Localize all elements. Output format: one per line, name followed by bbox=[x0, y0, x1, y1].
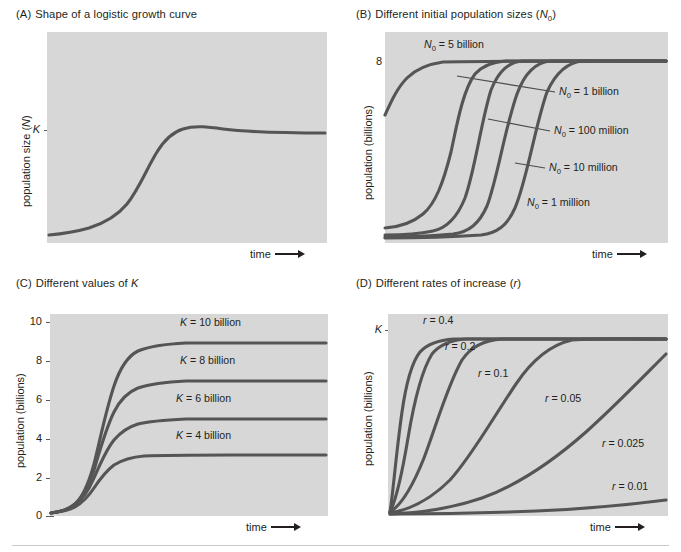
panel-c-xaxis-label: time bbox=[246, 521, 301, 533]
panel-d-label-2-text: = 0.1 bbox=[482, 367, 509, 379]
panel-a-logistic-curve bbox=[49, 127, 325, 235]
panel-d-label-0-text: = 0.4 bbox=[427, 314, 454, 326]
panel-d-label-4-text: = 0.025 bbox=[606, 437, 645, 449]
panel-a-ytick-k-label: K bbox=[26, 123, 40, 135]
panel-b-label-4-symbol: N bbox=[527, 196, 535, 208]
panel-a-xlabel-text: time bbox=[250, 248, 271, 260]
panel-b-label-n0-1-billion: N0 = 1 billion bbox=[559, 85, 619, 100]
panel-b-title-post: ) bbox=[552, 8, 556, 20]
panel-d-arrow-right-icon bbox=[615, 523, 645, 531]
panel-a-arrow-right-icon bbox=[275, 250, 305, 258]
panel-c-label-1-text: = 8 billion bbox=[187, 354, 235, 366]
panel-d-label-5-text: = 0.01 bbox=[616, 480, 649, 492]
panel-b-label-2-symbol: N bbox=[554, 124, 562, 136]
panel-c-ytick-2-label: 2 bbox=[22, 471, 42, 483]
panel-a-tag: (A) bbox=[16, 8, 31, 20]
panel-b-curve-n0-5-billion bbox=[385, 61, 666, 115]
panel-b-label-n0-5-billion: N0 = 5 billion bbox=[424, 38, 484, 53]
panel-b-label-4-text: = 1 million bbox=[539, 196, 590, 208]
panel-b-label-1-text: = 1 billion bbox=[571, 85, 619, 97]
panel-d-label-r-0-025: r = 0.025 bbox=[602, 437, 644, 449]
panel-c-curve-k-10-billion bbox=[51, 343, 326, 513]
panel-c-ytick-4-label: 4 bbox=[22, 432, 42, 444]
panel-c-title-pre: Different values of bbox=[36, 277, 131, 289]
panel-d-xlabel-text: time bbox=[590, 521, 611, 533]
panel-d-ytick-k-label: K bbox=[368, 323, 382, 335]
panel-b-label-1-symbol: N bbox=[559, 85, 567, 97]
panel-b-title-symbol: N bbox=[540, 8, 548, 20]
panel-b-label-3-text: = 10 million bbox=[561, 161, 618, 173]
panel-a-title: (A)Shape of a logistic growth curve bbox=[16, 8, 197, 20]
panel-c-label-2-text: = 6 billion bbox=[183, 392, 231, 404]
panel-d-label-3-text: = 0.05 bbox=[549, 392, 582, 404]
panel-a-title-text: Shape of a logistic growth curve bbox=[35, 8, 197, 20]
panel-c: (C)Different values of K population (bil… bbox=[0, 276, 340, 552]
panel-b-tag: (B) bbox=[356, 8, 371, 20]
panel-d-label-r-0-1: r = 0.1 bbox=[478, 367, 508, 379]
panel-c-xlabel-text: time bbox=[246, 521, 267, 533]
figure-logistic-growth-panels: (A)Shape of a logistic growth curve popu… bbox=[0, 0, 681, 552]
panel-b-label-3-symbol: N bbox=[549, 161, 557, 173]
panel-d-label-r-0-4: r = 0.4 bbox=[423, 314, 453, 326]
panel-d-label-1-text: = 0.2 bbox=[449, 340, 476, 352]
panel-d-curve-r-0-01 bbox=[390, 500, 666, 514]
panel-c-label-3-text: = 4 billion bbox=[183, 429, 231, 441]
panel-c-title-symbol: K bbox=[131, 277, 139, 289]
panel-b-xaxis-label: time bbox=[592, 248, 647, 260]
panel-d-label-r-0-2: r = 0.2 bbox=[445, 340, 475, 352]
panel-b-label-0-text: = 5 billion bbox=[436, 38, 484, 50]
panel-c-ytick-10-label: 10 bbox=[22, 315, 42, 327]
panel-c-label-k-6-billion: K = 6 billion bbox=[176, 392, 231, 404]
panel-d: (D)Different rates of increase (r) popul… bbox=[340, 276, 681, 552]
panel-d-title: (D)Different rates of increase (r) bbox=[356, 277, 521, 289]
panel-b-label-n0-10-million: N0 = 10 million bbox=[549, 161, 618, 176]
panel-a-plot-area bbox=[47, 32, 327, 243]
panel-c-label-k-8-billion: K = 8 billion bbox=[180, 354, 235, 366]
panel-c-title: (C)Different values of K bbox=[16, 277, 138, 289]
panel-c-ytick-0-mark bbox=[46, 516, 54, 517]
panel-a-curve-svg bbox=[47, 32, 327, 243]
panel-b-title-pre: Different initial population sizes ( bbox=[375, 8, 539, 20]
panel-b-curve-n0-1-billion bbox=[385, 61, 666, 228]
panel-d-title-post: ) bbox=[517, 277, 521, 289]
panel-a-ylabel-close: ) bbox=[20, 115, 32, 119]
panel-d-ylabel: population (billions) bbox=[362, 371, 374, 466]
panel-c-tag: (C) bbox=[16, 277, 32, 289]
panel-d-title-pre: Different rates of increase ( bbox=[376, 277, 514, 289]
panel-b-arrow-right-icon bbox=[617, 250, 647, 258]
panel-b-label-0-symbol: N bbox=[424, 38, 432, 50]
panel-d-label-r-0-05: r = 0.05 bbox=[545, 392, 581, 404]
panel-b-label-2-text: = 100 million bbox=[566, 124, 629, 136]
panel-d-label-r-0-01: r = 0.01 bbox=[612, 480, 648, 492]
panel-b-leader-lines bbox=[457, 76, 555, 168]
panel-a-xaxis-label: time bbox=[250, 248, 305, 260]
panel-b-ytick-8-label: 8 bbox=[368, 55, 382, 67]
panel-c-label-k-10-billion: K = 10 billion bbox=[180, 316, 241, 328]
panel-a-ylabel-text: population size ( bbox=[20, 127, 32, 207]
panel-b: (B)Different initial population sizes (N… bbox=[340, 0, 681, 276]
panel-c-arrow-right-icon bbox=[271, 523, 301, 531]
panel-c-label-0-text: = 10 billion bbox=[187, 316, 241, 328]
panel-b-label-n0-100-million: N0 = 100 million bbox=[554, 124, 629, 139]
panel-c-label-k-4-billion: K = 4 billion bbox=[176, 429, 231, 441]
panel-c-ytick-0-label: 0 bbox=[22, 509, 42, 521]
panel-b-title: (B)Different initial population sizes (N… bbox=[356, 8, 556, 23]
panel-c-curves-svg bbox=[50, 314, 328, 516]
panel-b-label-n0-1-million: N0 = 1 million bbox=[527, 196, 590, 211]
panel-c-ylabel: population (billions) bbox=[14, 373, 26, 468]
panel-d-xaxis-label: time bbox=[590, 521, 645, 533]
panel-d-tag: (D) bbox=[356, 277, 372, 289]
panel-b-xlabel-text: time bbox=[592, 248, 613, 260]
panel-c-ytick-6-label: 6 bbox=[22, 393, 42, 405]
panel-b-ylabel: population (billions) bbox=[362, 105, 374, 200]
panel-c-plot-area bbox=[50, 314, 328, 516]
panel-c-ytick-8-label: 8 bbox=[22, 354, 42, 366]
figure-bottom-rule bbox=[12, 545, 669, 546]
panel-a: (A)Shape of a logistic growth curve popu… bbox=[0, 0, 340, 276]
